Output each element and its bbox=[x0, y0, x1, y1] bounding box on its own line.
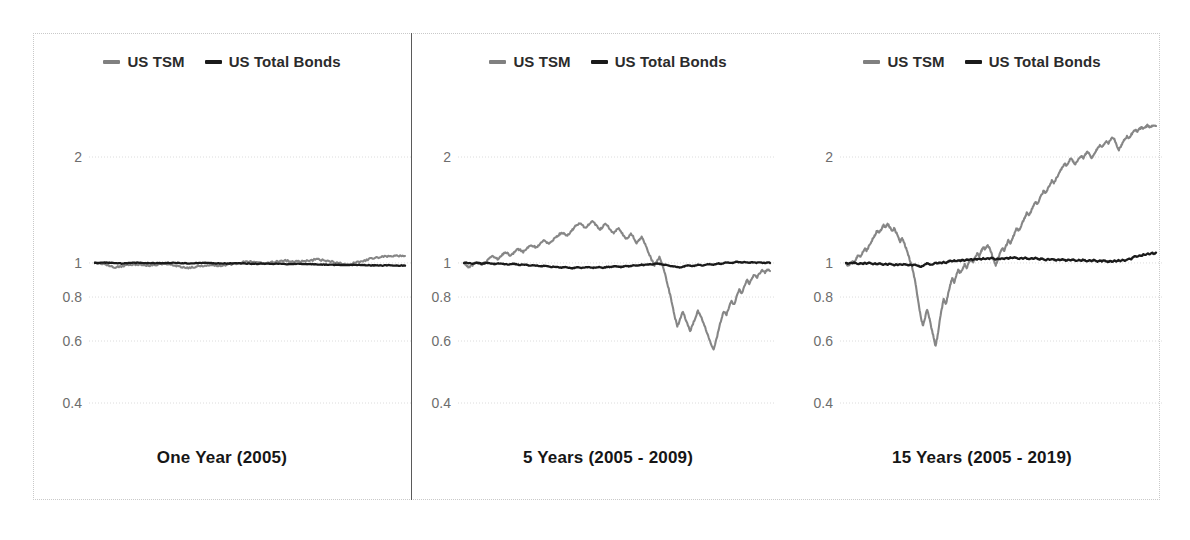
y-axis-tick-label: 1 bbox=[443, 255, 451, 271]
y-axis-tick-label: 0.4 bbox=[63, 395, 83, 411]
panel-title-1: 5 Years (2005 - 2009) bbox=[412, 448, 804, 468]
panel-title-2: 15 Years (2005 - 2019) bbox=[804, 448, 1160, 468]
y-axis-tick-label: 0.4 bbox=[814, 395, 834, 411]
y-axis-tick-label: 2 bbox=[443, 149, 451, 165]
y-axis-tick-label: 0.8 bbox=[814, 289, 834, 305]
chart-svg-0: 210.80.60.4 bbox=[33, 33, 411, 500]
series-line-us-tsm bbox=[846, 125, 1156, 346]
chart-figure: US TSM US Total Bonds 210.80.60.4 One Ye… bbox=[0, 0, 1190, 540]
chart-panel-five-years: US TSM US Total Bonds 210.80.60.4 5 Year… bbox=[412, 33, 804, 500]
y-axis-tick-label: 1 bbox=[825, 255, 833, 271]
y-axis-tick-label: 0.4 bbox=[432, 395, 452, 411]
y-axis-tick-label: 2 bbox=[825, 149, 833, 165]
y-axis-tick-label: 1 bbox=[74, 255, 82, 271]
chart-panel-one-year: US TSM US Total Bonds 210.80.60.4 One Ye… bbox=[33, 33, 411, 500]
series-line-us-tsm bbox=[464, 221, 770, 349]
panel-title-0: One Year (2005) bbox=[33, 448, 411, 468]
series-line-us-total-bonds bbox=[846, 253, 1156, 267]
y-axis-tick-label: 2 bbox=[74, 149, 82, 165]
plot-area-2: 210.80.60.4 bbox=[804, 33, 1160, 500]
y-axis-tick-label: 0.8 bbox=[432, 289, 452, 305]
chart-panel-fifteen-years: US TSM US Total Bonds 210.80.60.4 15 Yea… bbox=[804, 33, 1160, 500]
plot-area-1: 210.80.60.4 bbox=[412, 33, 804, 500]
chart-svg-2: 210.80.60.4 bbox=[804, 33, 1160, 500]
chart-svg-1: 210.80.60.4 bbox=[412, 33, 804, 500]
y-axis-tick-label: 0.6 bbox=[432, 333, 452, 349]
y-axis-tick-label: 0.6 bbox=[63, 333, 83, 349]
y-axis-tick-label: 0.6 bbox=[814, 333, 834, 349]
plot-area-0: 210.80.60.4 bbox=[33, 33, 411, 500]
y-axis-tick-label: 0.8 bbox=[63, 289, 83, 305]
